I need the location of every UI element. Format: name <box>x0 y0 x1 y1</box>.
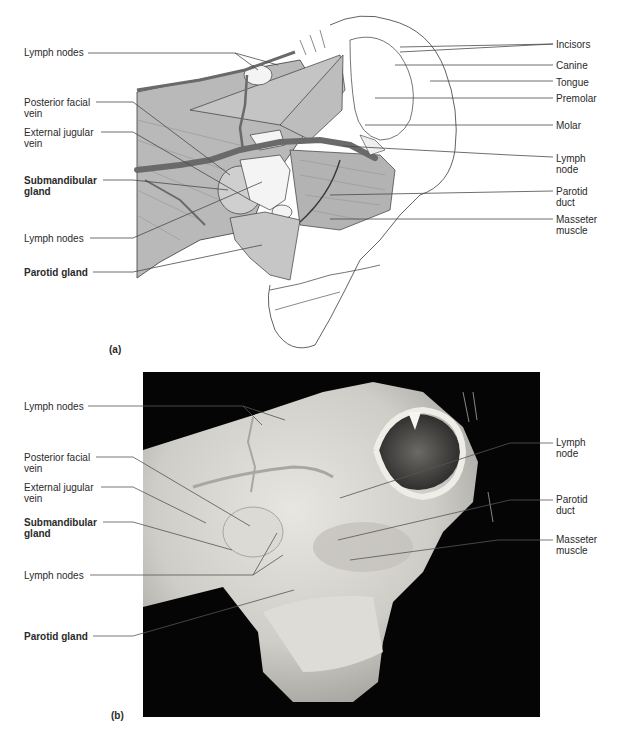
label-b-parotid-gland: Parotid gland <box>24 631 88 642</box>
panel-b-tag: (b) <box>111 710 124 721</box>
label-b-submandibular-gland: Submandibular gland <box>24 517 97 539</box>
label-b-posterior-facial-vein: Posterior facial vein <box>24 452 90 474</box>
label-b-external-jugular-vein: External jugular vein <box>24 482 93 504</box>
label-b-masseter-muscle: Masseter muscle <box>556 534 597 556</box>
label-b-parotid-duct: Parotid duct <box>556 494 588 516</box>
panel-b-leader-lines <box>0 0 621 738</box>
label-b-lymph-node: Lymph node <box>556 437 586 459</box>
label-b-lymph-nodes-top: Lymph nodes <box>24 401 84 412</box>
label-b-lymph-nodes-lower: Lymph nodes <box>24 570 84 581</box>
